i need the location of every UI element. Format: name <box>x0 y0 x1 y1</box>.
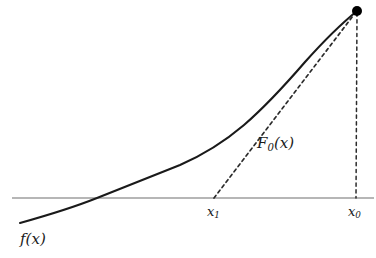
newton-method-figure: f(x) F0(x) x1 x0 <box>0 0 376 258</box>
function-curve <box>20 11 357 223</box>
tangent-label-variable: x <box>280 134 288 152</box>
curve-label-paren-close: ) <box>40 230 46 248</box>
x0-ordinate-dashed <box>356 13 357 198</box>
tangent-label-f0-of-x: F0(x) <box>257 136 294 153</box>
tangent-label-function-name: F <box>257 134 267 152</box>
axis-tick-label-x1: x1 <box>207 205 220 220</box>
curve-label-f-of-x: f(x) <box>20 232 46 247</box>
axis-tick-label-x1-subscript: 1 <box>214 210 220 220</box>
axis-tick-label-x0-subscript: 0 <box>355 210 361 220</box>
tangent-label-paren-close: ) <box>288 134 294 152</box>
initial-point-marker <box>352 6 362 16</box>
tangent-line-dashed <box>214 12 356 198</box>
curve-label-variable: x <box>31 230 39 248</box>
axis-tick-label-x0: x0 <box>348 205 361 220</box>
figure-canvas <box>0 0 376 258</box>
